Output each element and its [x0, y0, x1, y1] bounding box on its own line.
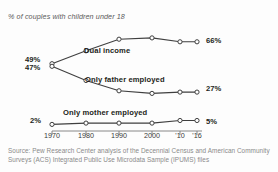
end-value-only-father-employed: 27% — [206, 84, 221, 93]
end-value-only-mother-employed: 5% — [206, 117, 217, 126]
data-point — [178, 40, 182, 44]
series-label-dual-income: Dual income — [84, 46, 130, 55]
start-value-only-mother-employed: 2% — [30, 116, 41, 125]
data-point — [117, 89, 121, 93]
data-point — [195, 90, 199, 94]
x-tick-label-1970: 1970 — [40, 131, 64, 140]
data-point — [150, 91, 154, 95]
x-tick-label-1980: 1980 — [74, 131, 98, 140]
x-tick-label-2000: 2000 — [140, 131, 164, 140]
data-point — [50, 64, 54, 68]
source-note: Source: Pew Research Center analysis of … — [8, 146, 274, 164]
x-axis-tick-labels: 1970198019902000'10'16 — [0, 131, 278, 143]
line-chart-plot — [0, 0, 278, 145]
x-tick-label-1990: 1990 — [107, 131, 131, 140]
start-value-only-father-employed: 47% — [25, 63, 40, 72]
data-point — [84, 121, 88, 125]
series-label-only-mother-employed: Only mother employed — [63, 108, 147, 117]
data-point — [178, 90, 182, 94]
data-point — [150, 121, 154, 125]
data-point — [50, 122, 54, 126]
data-point — [195, 40, 199, 44]
data-point — [195, 118, 199, 122]
data-point — [117, 121, 121, 125]
chart-figure: % of couples with children under 18 Dual… — [0, 0, 278, 172]
data-point — [178, 118, 182, 122]
data-point — [150, 36, 154, 40]
x-tick-label-16: '16 — [185, 131, 209, 140]
end-value-dual-income: 66% — [206, 36, 221, 45]
series-line-only-mother-employed — [52, 121, 197, 125]
data-point — [117, 37, 121, 41]
series-label-only-father-employed: Only father employed — [85, 75, 165, 84]
